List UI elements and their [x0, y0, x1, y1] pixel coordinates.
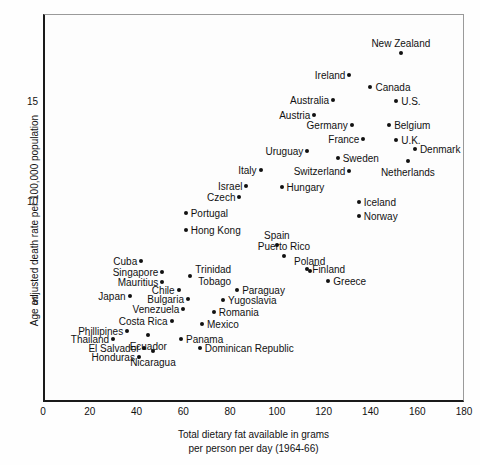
- data-point-label: Ireland: [315, 70, 346, 81]
- x-tick-label: 180: [449, 406, 479, 417]
- data-point: [357, 214, 361, 218]
- x-tick-label: 100: [262, 406, 292, 417]
- x-tick-label: 40: [122, 406, 152, 417]
- data-point-label: Mexico: [207, 319, 239, 330]
- data-point-label: France: [328, 134, 359, 145]
- data-point-label: Iceland: [364, 197, 396, 208]
- data-point: [170, 319, 174, 323]
- data-point: [331, 98, 335, 102]
- data-point: [142, 346, 146, 350]
- data-point-label: Switzerland: [294, 166, 346, 177]
- data-point-label: Czech: [207, 192, 235, 203]
- data-point-label: Denmark: [420, 144, 461, 155]
- data-point-label: Dominican Republic: [205, 343, 294, 354]
- data-point-label: Cuba: [113, 256, 137, 267]
- data-point: [399, 51, 403, 55]
- data-point-label: Australia: [290, 95, 329, 106]
- data-point: [177, 288, 181, 292]
- data-point: [336, 156, 340, 160]
- x-axis-title-line1: Total dietary fat available in grams: [43, 428, 464, 442]
- data-point-label: Belgium: [394, 120, 430, 131]
- data-point-label: Hong Kong: [191, 225, 241, 236]
- data-point-label: Germany: [307, 120, 348, 131]
- data-point-label: Venezuela: [133, 304, 180, 315]
- data-point: [186, 297, 190, 301]
- data-point-label: Yugoslavia: [228, 295, 276, 306]
- x-tick-label: 80: [215, 406, 245, 417]
- data-point-label: Hungary: [287, 182, 325, 193]
- data-point: [184, 228, 188, 232]
- data-point-label: Norway: [364, 211, 398, 222]
- data-point-label: New Zealand: [371, 38, 430, 49]
- y-axis-title: Age adjusted death rate per 100,000 popu…: [29, 91, 40, 351]
- data-point: [259, 168, 263, 172]
- data-point: [198, 346, 202, 350]
- x-tick-label: 160: [402, 406, 432, 417]
- x-tick-label: 20: [75, 406, 105, 417]
- x-tick-label: 0: [28, 406, 58, 417]
- data-point: [184, 211, 188, 215]
- data-point-label: Uruguay: [265, 146, 303, 157]
- data-point: [151, 349, 155, 353]
- data-point-label: Spain: [264, 230, 290, 241]
- data-point: [179, 337, 183, 341]
- data-point-label: Honduras: [92, 352, 135, 363]
- data-point-label: TrinidadTobago: [195, 264, 231, 288]
- data-point-label: Poland: [294, 256, 325, 267]
- data-point-label: Italy: [238, 165, 256, 176]
- data-point-label: Israel: [218, 181, 242, 192]
- data-point: [200, 322, 204, 326]
- data-point-label: Puerto Rico: [258, 241, 310, 252]
- x-tick-label: 120: [309, 406, 339, 417]
- data-point: [308, 269, 312, 273]
- data-point-label: Costa Rica: [119, 316, 168, 327]
- data-point: [280, 185, 284, 189]
- data-point-label: Portugal: [191, 208, 228, 219]
- data-point: [357, 200, 361, 204]
- data-point: [350, 123, 354, 127]
- x-axis-title: Total dietary fat available in grams per…: [43, 428, 464, 456]
- data-point-label: Japan: [98, 291, 125, 302]
- x-axis-title-line2: per person per day (1964-66): [43, 442, 464, 456]
- data-point-label: Sweden: [343, 153, 379, 164]
- x-tick-label: 140: [355, 406, 385, 417]
- data-point-label: Romania: [219, 307, 259, 318]
- data-point-label: Canada: [375, 82, 410, 93]
- data-point-label: Netherlands: [381, 167, 435, 178]
- data-point: [212, 310, 216, 314]
- data-point-label: Greece: [333, 276, 366, 287]
- data-point: [128, 294, 132, 298]
- scatter-chart: Cancer of the Intestine (Except Rectum) …: [0, 0, 480, 465]
- data-point: [406, 159, 410, 163]
- data-point-label: U.K.: [401, 135, 420, 146]
- data-point-label: Nicaragua: [130, 357, 176, 368]
- x-tick-label: 60: [168, 406, 198, 417]
- data-point: [413, 147, 417, 151]
- data-point: [282, 254, 286, 258]
- data-point-label: U.S.: [401, 96, 420, 107]
